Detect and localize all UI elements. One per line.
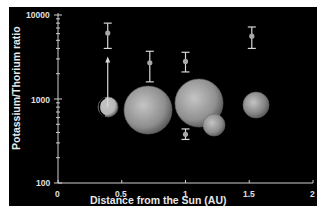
chart-plot <box>0 0 321 222</box>
y-tick-100: 100 <box>36 178 50 188</box>
x-tick-1: 1 <box>183 189 188 199</box>
x-tick-0: 0 <box>55 189 60 199</box>
y-tick-10000: 10000 <box>26 10 50 20</box>
planet-moon-image <box>203 114 225 136</box>
x-axis-label: Distance from the Sun (AU) <box>90 194 227 206</box>
y-axis-label: Potassium/Thorium ratio <box>10 26 22 150</box>
data-point-earth <box>183 59 188 64</box>
x-tick-0.5: 0.5 <box>115 189 127 199</box>
x-tick-1.5: 1.5 <box>243 189 255 199</box>
planet-venus-image <box>124 86 172 134</box>
planet-mars-image <box>243 92 269 118</box>
lower-limit-arrow-head <box>105 56 110 62</box>
y-tick-1000: 1000 <box>31 95 50 105</box>
data-point-mars <box>249 34 254 39</box>
data-point-moon <box>183 132 188 137</box>
x-tick-2: 2 <box>310 189 315 199</box>
data-point-mercury <box>105 30 110 35</box>
data-point-venus <box>147 60 152 65</box>
